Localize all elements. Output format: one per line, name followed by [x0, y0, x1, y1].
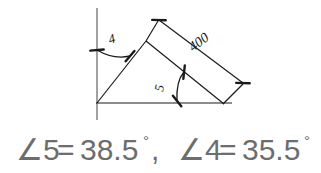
angle-5-arc	[177, 72, 184, 101]
angle-4-result-degree: °	[304, 132, 310, 149]
angle-4-arc	[97, 50, 130, 57]
technical-drawing-canvas: 4 5 400 ∠5 = 38.5 ° , ∠4 = 35.5 °	[0, 0, 321, 173]
inner-parallel-line	[146, 41, 224, 104]
angle-4-label: 4	[106, 30, 117, 46]
length-400-label: 400	[186, 30, 212, 55]
dimension-line-400	[159, 20, 243, 83]
upper-left-extension-line	[146, 21, 158, 41]
angle-5-result-equals: =	[57, 133, 75, 166]
angle-4-result-value: 35.5	[242, 133, 300, 166]
result-caption: ∠5 = 38.5 ° , ∠4 = 35.5 °	[16, 132, 310, 166]
angle-4-result-symbol: ∠4	[178, 133, 222, 166]
angle-5-result-symbol: ∠5	[16, 133, 60, 166]
angle-4-result-equals: =	[219, 133, 237, 166]
angle-5-result-value: 38.5	[80, 133, 138, 166]
result-comma: ,	[151, 133, 159, 166]
angle-5-result-degree: °	[143, 132, 149, 149]
left-inclined-line	[97, 41, 146, 103]
right-closing-line	[223, 84, 243, 104]
figure-root: 4 5 400 ∠5 = 38.5 ° , ∠4 = 35.5 °	[0, 0, 321, 173]
angle-5-label: 5	[151, 83, 167, 92]
